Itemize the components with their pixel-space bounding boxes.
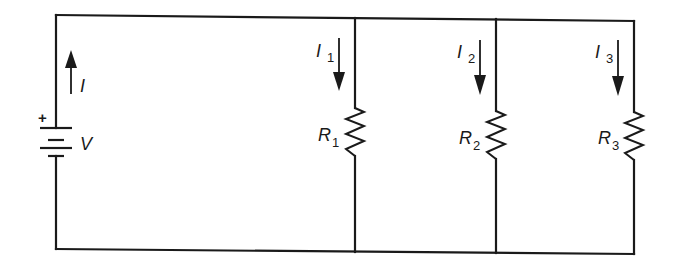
- branch-1: I 1 R 1: [316, 38, 364, 156]
- resistor-label-3: R: [598, 128, 611, 148]
- current-label-3: I: [595, 42, 600, 62]
- resistor-label-1: R: [318, 125, 331, 145]
- bottom-wire: [56, 249, 634, 254]
- source-current-arrow-icon: I: [65, 50, 85, 96]
- current-sub-1: 1: [327, 50, 334, 65]
- polarity-plus: +: [38, 109, 47, 126]
- resistor-2-icon: [487, 111, 505, 159]
- current-sub-2: 2: [468, 51, 475, 66]
- current-label-2: I: [457, 42, 462, 62]
- battery-icon: + V: [38, 109, 94, 156]
- resistor-1-icon: [346, 108, 364, 156]
- circuit-diagram: + V I I 1 R 1 I 2 R 2 I 3 R 3: [0, 0, 684, 271]
- resistor-sub-1: 1: [332, 135, 339, 150]
- current-label-1: I: [316, 41, 321, 61]
- resistor-sub-3: 3: [612, 138, 619, 153]
- resistor-label-2: R: [459, 128, 472, 148]
- voltage-label: V: [80, 134, 94, 154]
- current-sub-3: 3: [606, 51, 613, 66]
- resistor-3-icon: [625, 112, 643, 160]
- top-wire: [56, 15, 634, 21]
- resistor-sub-2: 2: [473, 138, 480, 153]
- branch-3: I 3 R 3: [595, 40, 643, 160]
- branch-2: I 2 R 2: [457, 40, 505, 159]
- source-current-label: I: [80, 76, 85, 96]
